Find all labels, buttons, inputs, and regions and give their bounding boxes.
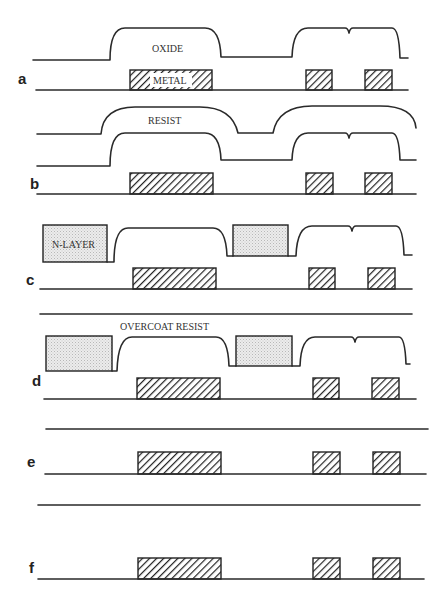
step-label-e: e (27, 453, 35, 470)
metal-block-small-2-c (368, 268, 395, 289)
oxide-profile-a (33, 28, 408, 60)
step-label-b: b (30, 175, 39, 192)
step-d: d OVERCOAT RESIST (32, 314, 416, 399)
step-label-f: f (29, 559, 35, 576)
metal-block-large-c (133, 268, 216, 289)
metal-block-small-1-a (306, 70, 332, 90)
step-e: e (27, 429, 428, 474)
step-f: f (29, 505, 424, 579)
n-layer-label: N-LAYER (52, 239, 95, 250)
n-layer-block-2-d (236, 336, 292, 366)
process-diagram: a OXIDE METAL b RESIST c N-LAYER d OVE (0, 0, 446, 608)
metal-block-large-d (137, 378, 220, 399)
metal-block-small-1-e (313, 452, 340, 474)
metal-block-small-1-f (313, 558, 340, 579)
overcoat-resist-label: OVERCOAT RESIST (120, 321, 209, 332)
metal-label: METAL (153, 75, 187, 86)
metal-block-small-1-c (309, 268, 335, 289)
step-a: a OXIDE METAL (18, 28, 408, 90)
step-label-d: d (32, 372, 41, 389)
metal-block-small-2-a (365, 70, 392, 90)
resist-profile-b (37, 106, 416, 134)
n-layer-block-1-d (46, 336, 112, 371)
step-label-a: a (18, 70, 27, 87)
oxide-profile-b (37, 133, 416, 166)
metal-block-small-2-f (373, 558, 400, 579)
step-b: b RESIST (30, 106, 416, 194)
metal-block-large-b (130, 173, 213, 194)
metal-block-small-2-d (372, 378, 399, 399)
n-layer-block-2-c (233, 225, 288, 256)
metal-block-small-2-e (373, 452, 400, 474)
metal-block-small-1-b (306, 173, 333, 194)
resist-label: RESIST (148, 115, 181, 126)
step-c: c N-LAYER (26, 225, 412, 289)
metal-block-large-e (138, 452, 221, 474)
metal-block-large-f (138, 558, 221, 579)
step-label-c: c (26, 271, 34, 288)
metal-block-small-1-d (313, 378, 339, 399)
metal-block-small-2-b (365, 173, 392, 194)
oxide-label: OXIDE (152, 43, 183, 54)
